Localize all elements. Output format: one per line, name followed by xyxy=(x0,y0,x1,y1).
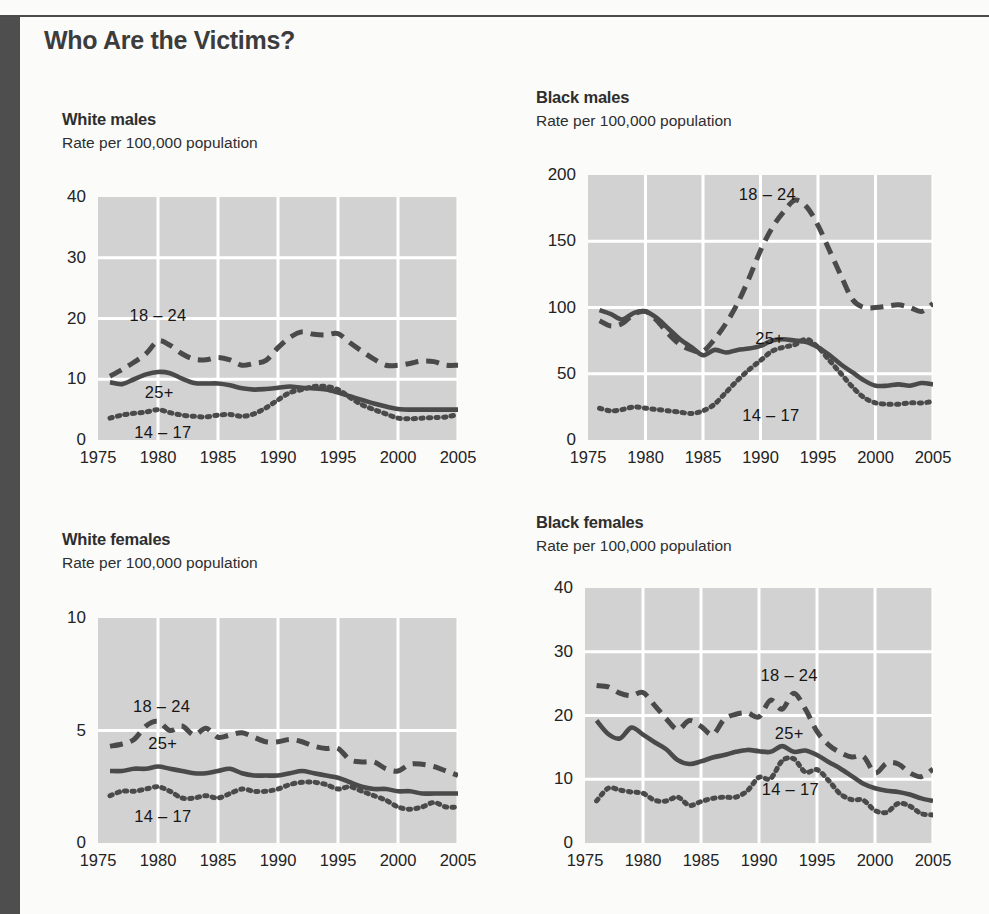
chart-title-white-males: White males xyxy=(62,110,258,129)
x-axis-tick-label: 1980 xyxy=(625,851,662,870)
x-axis-tick-label: 2005 xyxy=(915,851,952,870)
y-axis-tick-label: 10 xyxy=(67,369,86,389)
x-axis-tick-label: 1990 xyxy=(742,448,779,467)
x-axis-tick-label: 1995 xyxy=(799,851,836,870)
chart-title-black-females: Black females xyxy=(536,513,732,532)
y-axis-tick-label: 30 xyxy=(554,642,573,662)
y-axis-tick-label: 0 xyxy=(567,430,576,450)
y-axis-tick-label: 0 xyxy=(77,430,86,450)
series-annotation: 25+ xyxy=(148,733,177,752)
y-axis-tick-label: 40 xyxy=(554,578,573,598)
series-annotation: 14 – 17 xyxy=(762,780,819,799)
chart-title-white-females: White females xyxy=(62,530,258,549)
x-axis-tick-label: 1995 xyxy=(800,448,837,467)
x-axis-tick-label: 1985 xyxy=(683,851,720,870)
y-axis-tick-label: 0 xyxy=(77,833,86,853)
y-axis-tick-label: 40 xyxy=(67,187,86,207)
series-annotation: 18 – 24 xyxy=(739,184,796,203)
x-axis-tick-label: 1980 xyxy=(140,851,177,870)
x-axis-tick-label: 1985 xyxy=(685,448,722,467)
x-axis-tick-label: 1975 xyxy=(80,851,117,870)
chart-subtitle-black-males: Rate per 100,000 population xyxy=(536,112,732,130)
left-edge-bar xyxy=(0,17,20,914)
top-rule-divider xyxy=(0,15,989,17)
plot-area-black-males: 0501001502001975198019851990199520002005… xyxy=(588,175,933,440)
series-annotation: 18 – 24 xyxy=(133,696,190,715)
y-axis-tick-label: 20 xyxy=(67,309,86,329)
y-axis-tick-label: 0 xyxy=(564,833,573,853)
chart-title-black-males: Black males xyxy=(536,88,732,107)
y-axis-tick-label: 20 xyxy=(554,706,573,726)
series-annotation: 25+ xyxy=(145,383,174,402)
chart-subtitle-white-females: Rate per 100,000 population xyxy=(62,554,258,572)
y-axis-tick-label: 50 xyxy=(557,364,576,384)
series-annotation: 14 – 17 xyxy=(134,807,191,826)
y-axis-tick-label: 10 xyxy=(67,608,86,628)
x-axis-tick-label: 2000 xyxy=(380,448,417,467)
x-axis-tick-label: 2000 xyxy=(857,448,894,467)
plot-area-white-females: 0510197519801985199019952000200518 – 242… xyxy=(98,618,458,843)
y-axis-tick-label: 30 xyxy=(67,248,86,268)
chart-panel-white-females: White females Rate per 100,000 populatio… xyxy=(62,530,258,572)
x-axis-tick-label: 1995 xyxy=(320,448,357,467)
x-axis-tick-label: 2005 xyxy=(915,448,952,467)
series-annotation: 25+ xyxy=(775,724,804,743)
x-axis-tick-label: 1975 xyxy=(80,448,117,467)
series-annotation: 18 – 24 xyxy=(129,305,186,324)
y-axis-tick-label: 5 xyxy=(77,721,86,741)
chart-svg-black-females xyxy=(585,588,933,843)
x-axis-tick-label: 1985 xyxy=(200,851,237,870)
x-axis-tick-label: 1990 xyxy=(741,851,778,870)
chart-panel-white-males: White males Rate per 100,000 population xyxy=(62,110,258,152)
x-axis-tick-label: 1990 xyxy=(260,851,297,870)
page-title: Who Are the Victims? xyxy=(44,26,295,55)
x-axis-tick-label: 1980 xyxy=(627,448,664,467)
chart-panel-black-females: Black females Rate per 100,000 populatio… xyxy=(536,513,732,555)
chart-panel-black-males: Black males Rate per 100,000 population xyxy=(536,88,732,130)
x-axis-tick-label: 1975 xyxy=(570,448,607,467)
x-axis-tick-label: 2005 xyxy=(440,448,477,467)
plot-area-black-females: 010203040197519801985199019952000200518 … xyxy=(585,588,933,843)
series-annotation: 14 – 17 xyxy=(742,405,799,424)
plot-area-white-males: 010203040197519801985199019952000200518 … xyxy=(98,197,458,440)
x-axis-tick-label: 2005 xyxy=(440,851,477,870)
chart-svg-black-males xyxy=(588,175,933,440)
x-axis-tick-label: 1985 xyxy=(200,448,237,467)
x-axis-tick-label: 1980 xyxy=(140,448,177,467)
y-axis-tick-label: 10 xyxy=(554,769,573,789)
y-axis-tick-label: 200 xyxy=(548,165,576,185)
x-axis-tick-label: 1975 xyxy=(567,851,604,870)
x-axis-tick-label: 1990 xyxy=(260,448,297,467)
chart-subtitle-black-females: Rate per 100,000 population xyxy=(536,537,732,555)
x-axis-tick-label: 1995 xyxy=(320,851,357,870)
x-axis-tick-label: 2000 xyxy=(380,851,417,870)
x-axis-tick-label: 2000 xyxy=(857,851,894,870)
chart-subtitle-white-males: Rate per 100,000 population xyxy=(62,134,258,152)
y-axis-tick-label: 150 xyxy=(548,231,576,251)
series-annotation: 25+ xyxy=(755,328,784,347)
series-annotation: 18 – 24 xyxy=(761,665,818,684)
series-annotation: 14 – 17 xyxy=(134,423,191,442)
y-axis-tick-label: 100 xyxy=(548,298,576,318)
